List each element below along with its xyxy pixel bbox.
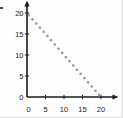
x-tick-label: 20 — [97, 105, 105, 114]
data-point — [31, 18, 34, 21]
data-point — [57, 47, 60, 50]
data-point — [46, 35, 49, 38]
data-point — [53, 43, 56, 46]
x-tick-label: 0 — [26, 105, 30, 114]
data-point — [83, 77, 86, 80]
data-point — [61, 52, 64, 55]
x-axis-arrow-icon — [113, 94, 119, 99]
scatter-plot: 0510152005101520 — [0, 0, 123, 118]
data-point — [87, 81, 90, 84]
y-tick-label: 15 — [15, 30, 23, 39]
x-tick-label: 15 — [78, 105, 86, 114]
y-tick-label: 10 — [15, 51, 23, 60]
data-point — [65, 56, 68, 59]
y-tick-label: 0 — [19, 93, 23, 102]
data-point — [39, 26, 42, 29]
data-point — [79, 73, 82, 76]
y-tick-label: 5 — [19, 72, 23, 81]
data-point — [35, 22, 38, 25]
y-tick-label: 20 — [15, 9, 23, 18]
y-axis-arrow-icon — [24, 1, 29, 7]
data-point — [28, 14, 31, 17]
data-point — [94, 89, 97, 92]
data-point — [98, 94, 101, 97]
x-tick-label: 10 — [60, 105, 68, 114]
data-point — [68, 60, 71, 63]
stray-mark — [0, 7, 3, 9]
data-point — [42, 31, 45, 34]
data-point — [50, 39, 53, 42]
data-point — [90, 85, 93, 88]
figure-canvas: 0510152005101520 — [0, 0, 123, 118]
x-tick-label: 5 — [43, 105, 47, 114]
data-point — [76, 68, 79, 71]
data-point — [72, 64, 75, 67]
